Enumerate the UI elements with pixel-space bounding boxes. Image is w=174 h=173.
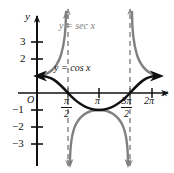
y-tick-label-minus-1: −1 xyxy=(12,104,24,115)
y-tick-label-2: 2 xyxy=(20,53,26,64)
x-tick-3pi-over-2-denominator: 2 xyxy=(121,109,132,119)
x-tick-label-pi-over-2: π 2 xyxy=(61,96,72,119)
x-tick-label-2pi: 2π xyxy=(144,96,154,106)
x-tick-label-3pi-over-2: 3π 2 xyxy=(121,96,132,119)
x-tick-pi-over-2-numerator: π xyxy=(61,96,72,106)
x-tick-3pi-over-2-numerator: 3π xyxy=(121,96,132,106)
secant-branch-right xyxy=(132,12,160,76)
secant-branch-middle xyxy=(70,110,128,164)
asymptote-group xyxy=(68,9,130,166)
x-tick-pi-over-2-denominator: 2 xyxy=(61,109,72,119)
y-tick-label-3: 3 xyxy=(20,36,26,47)
y-tick-label-minus-2: −2 xyxy=(12,121,24,132)
origin-label: O xyxy=(27,95,34,105)
y-tick-label-minus-3: −3 xyxy=(12,138,24,149)
y-axis-label: y xyxy=(25,11,30,22)
secant-middle-arrowheads xyxy=(67,159,132,168)
x-axis-label: x xyxy=(163,88,167,98)
x-tick-label-pi: π xyxy=(95,96,100,106)
cosine-curve-label: y = cos x xyxy=(54,63,90,73)
secant-curve-label: y = sec x xyxy=(59,21,95,31)
secant-cosine-figure: y x O 3 2 −1 −2 −3 π 2 π 3π 2 2π y = sec… xyxy=(0,0,174,173)
